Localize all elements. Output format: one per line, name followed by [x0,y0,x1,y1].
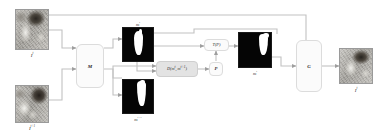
matcher-block[interactable]: M [76,44,104,88]
input-frame-t-texture [16,10,48,49]
mask-t1-blob-tip [140,80,145,84]
mask-t-blob [134,31,143,55]
param-block[interactable]: P [209,62,223,76]
mask-warped-label: mt [238,70,272,76]
mask-t1-blob [137,81,146,106]
input-frame-t [15,9,49,50]
distance-block[interactable]: D(mt, mt+1) [156,61,198,77]
wire-mask-warped-to-generator [272,57,296,66]
diagram-canvas: It It+1 M mt mt+1 D(mt, mt+1) P T(P) [0,0,387,139]
output-frame-texture [340,49,372,83]
input-frame-t1-label: It+1 [12,125,52,131]
input-frame-t1-texture [16,86,48,122]
wire-mask-t1-to-distance [113,66,156,78]
wire-matcher-to-mask-t1 [104,69,122,95]
wire-matcher-to-mask-t [104,39,122,48]
mask-t1-label: mt+1 [120,116,156,122]
wire-frame-t1-to-matcher [49,69,76,100]
generator-block[interactable]: G [296,40,322,92]
wire-mask-t-to-distance [137,62,156,71]
output-frame-label: It [339,87,373,93]
mask-t [122,27,154,62]
wire-frame-t-to-matcher [49,30,76,48]
input-frame-t1 [15,85,49,123]
mask-t1 [122,79,154,114]
generator-block-label: G [307,64,311,69]
param-block-label: P [215,67,218,72]
output-frame [339,48,373,84]
transform-block[interactable]: T(P) [204,39,229,51]
transform-block-label: T(P) [212,43,220,47]
mask-warped [238,32,272,68]
mask-warped-blob-tip [263,33,269,38]
matcher-block-label: M [88,64,92,69]
distance-block-label: D(mt, mt+1) [167,66,187,72]
input-frame-t-label: It [15,52,49,58]
